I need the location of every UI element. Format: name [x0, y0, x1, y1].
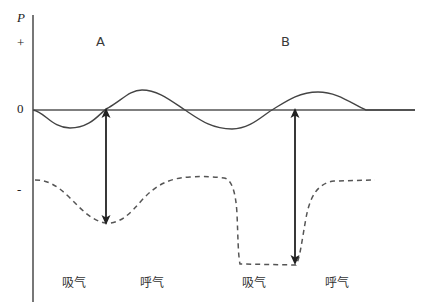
- phase-label-inhale-a: 吸气: [62, 277, 86, 289]
- pressure-waveform-plot: [0, 0, 422, 307]
- y-axis-negative-label: -: [17, 183, 21, 196]
- phase-label-exhale-b: 呼气: [325, 277, 349, 289]
- phase-label-exhale-a: 呼气: [140, 277, 164, 289]
- cycle-label-a: A: [96, 35, 105, 48]
- phase-label-inhale-b: 吸气: [242, 277, 266, 289]
- y-axis-positive-label: +: [17, 36, 24, 49]
- y-axis-label: P: [17, 11, 25, 24]
- cycle-label-b: B: [281, 35, 290, 48]
- amplitude-arrow-b: [291, 108, 300, 265]
- intrapleural-pressure-curve: [35, 177, 375, 265]
- y-axis-zero-label: 0: [17, 102, 24, 115]
- figure-canvas: P + 0 - A B 吸气 呼气 吸气 呼气: [0, 0, 422, 307]
- amplitude-arrow-a: [102, 108, 111, 225]
